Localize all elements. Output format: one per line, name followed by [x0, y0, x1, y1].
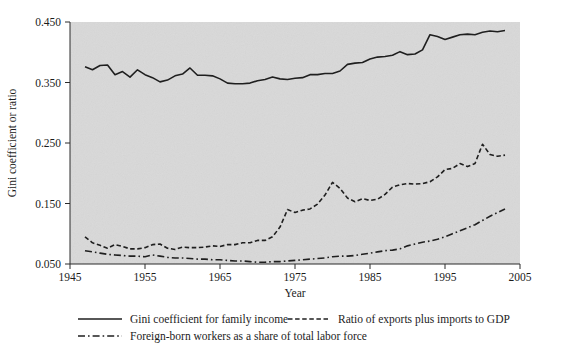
x-tick-label: 1965	[209, 271, 232, 283]
plot-area	[70, 22, 520, 264]
line-chart: 0.0500.1500.2500.3500.450 19451955196519…	[0, 0, 567, 347]
legend-label-gini: Gini coefficient for family income	[130, 313, 288, 326]
x-tick-label: 1945	[59, 271, 82, 283]
y-tick-label: 0.350	[35, 77, 61, 89]
x-axis-title: Year	[284, 287, 305, 299]
legend-label-trade: Ratio of exports plus imports to GDP	[338, 313, 510, 326]
chart-figure: 0.0500.1500.2500.3500.450 19451955196519…	[0, 0, 567, 347]
y-tick-label: 0.150	[35, 198, 61, 210]
x-tick-label: 2005	[509, 271, 532, 283]
legend-label-foreign-born: Foreign-born workers as a share of total…	[130, 330, 367, 343]
x-tick-label: 1975	[284, 271, 307, 283]
y-tick-label: 0.250	[35, 137, 61, 149]
x-tick-label: 1995	[434, 271, 457, 283]
y-tick-label: 0.450	[35, 16, 61, 28]
y-tick-label: 0.050	[35, 258, 61, 270]
x-tick-label: 1985	[359, 271, 382, 283]
y-axis-title: Gini coefficient or ratio	[6, 88, 18, 197]
x-tick-label: 1955	[134, 271, 157, 283]
plot-background	[70, 22, 520, 264]
